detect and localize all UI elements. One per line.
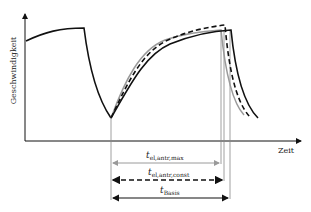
span-label-el-antr-max: tel,antr,max bbox=[146, 150, 184, 161]
span-label-el-antr-const: tel,antr,const bbox=[148, 167, 189, 178]
span-label-basis: tBasis bbox=[160, 185, 180, 196]
initial-speed-curve bbox=[26, 28, 111, 118]
diagram-canvas bbox=[0, 0, 311, 212]
y-axis-label: Geschwindigkeit bbox=[9, 26, 18, 116]
speed-time-diagram: Geschwindigkeit Zeit tel,antr,max tel,an… bbox=[0, 0, 311, 212]
x-axis-label: Zeit bbox=[278, 146, 294, 155]
